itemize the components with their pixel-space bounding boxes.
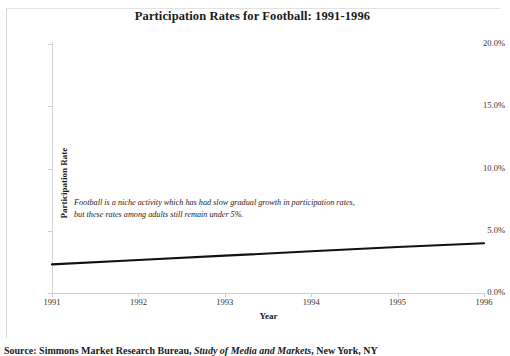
source-note: Source: Simmons Market Research Bureau, … [4, 345, 504, 356]
source-publication-title: Study of Media and Markets [194, 345, 311, 356]
source-prefix: Source: Simmons Market Research Bureau, [4, 345, 192, 356]
source-suffix: , New York, NY [311, 345, 378, 356]
chart-annotation: Football is a niche activity which has h… [74, 197, 364, 221]
data-line-football [52, 243, 484, 264]
